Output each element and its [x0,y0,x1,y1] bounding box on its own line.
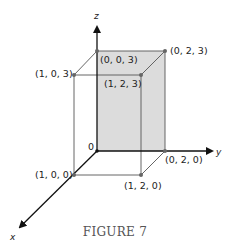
point-123-icon [139,73,143,77]
point-label-120: (1, 2, 0) [124,180,162,191]
point-003-icon [95,49,99,53]
x-axis [20,151,97,227]
point-label-020: (0, 2, 0) [165,154,203,165]
origin-point-icon [95,149,99,153]
point-label-003: (0, 0, 3) [100,54,138,65]
x-axis-label: x [9,232,16,242]
point-label-100: (1, 0, 0) [35,169,73,180]
point-label-023: (0, 2, 3) [170,45,208,56]
point-023-icon [163,49,167,53]
point-020-icon [163,149,167,153]
figure-caption: FIGURE 7 [83,225,147,239]
z-axis-label: z [93,11,99,21]
point-label-103: (1, 0, 3) [35,68,73,79]
y-axis-label: y [215,147,222,157]
back-face-shaded [97,51,165,151]
point-120-icon [139,173,143,177]
box-3d-diagram: z y x 0 (0, 0, 3) (0, 2, 3) (1, 0, 3) (1… [0,0,229,251]
origin-label: 0 [88,141,94,152]
point-label-123: (1, 2, 3) [104,78,142,89]
